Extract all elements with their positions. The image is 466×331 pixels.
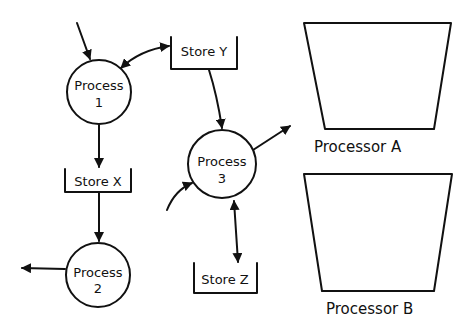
store-y-label: Store Y <box>181 44 227 59</box>
process-2-label-line2: 2 <box>94 281 102 296</box>
process-1: Process 1 <box>67 60 131 124</box>
processor-a-label: Processor A <box>314 138 402 156</box>
processor-b-trapezoid <box>304 174 452 291</box>
process-2-label-line1: Process <box>73 265 123 280</box>
store-z: Store Z <box>194 263 257 293</box>
processor-b-label: Processor B <box>326 300 413 318</box>
flow-arrow-external-to-process-1 <box>77 23 90 59</box>
flow-arrow-store-y-to-process-3 <box>209 70 222 128</box>
process-1-label-line1: Process <box>74 78 124 93</box>
flow-arrow-process-3-to-external <box>253 126 290 150</box>
processor-a-trapezoid <box>304 23 451 129</box>
flow-arrow-external-to-process-3 <box>167 183 192 210</box>
process-3: Process 3 <box>188 130 256 198</box>
processor-a: Processor A <box>304 23 451 156</box>
store-x: Store X <box>65 169 131 192</box>
store-x-label: Store X <box>74 174 121 189</box>
flow-arrow-process-2-to-external <box>22 268 65 269</box>
flow-arrow-process-3-store-z <box>234 201 238 262</box>
data-flow-diagram: Process 1 Process 2 Process 3 Store Y St… <box>0 0 466 331</box>
process-2: Process 2 <box>66 243 130 307</box>
store-z-label: Store Z <box>201 272 248 287</box>
process-3-label-line1: Process <box>197 154 247 169</box>
flow-arrow-process-1-store-y <box>121 46 169 68</box>
process-1-label-line2: 1 <box>95 95 103 110</box>
processor-b: Processor B <box>304 174 452 318</box>
store-y: Store Y <box>171 37 237 69</box>
process-3-label-line2: 3 <box>218 171 226 186</box>
